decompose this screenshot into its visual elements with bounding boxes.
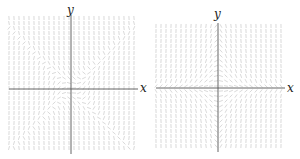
- direction-segment: [133, 26, 135, 30]
- direction-segment: [124, 136, 125, 140]
- direction-segment: [99, 101, 100, 105]
- direction-segment: [230, 69, 232, 73]
- slope-field-left: x y: [0, 0, 150, 159]
- direction-segment: [87, 107, 91, 108]
- direction-segment: [204, 86, 208, 87]
- direction-segment: [170, 89, 172, 92]
- direction-segment: [52, 107, 55, 109]
- direction-segment: [103, 116, 105, 120]
- direction-segment: [191, 114, 192, 118]
- direction-segment: [83, 91, 85, 94]
- direction-segment: [241, 64, 242, 68]
- direction-segment: [246, 59, 247, 63]
- direction-segment: [251, 69, 252, 73]
- direction-segment: [39, 66, 40, 70]
- direction-segment: [99, 76, 100, 80]
- direction-segment: [205, 95, 208, 98]
- direction-segment: [124, 41, 125, 45]
- direction-segment: [59, 116, 60, 120]
- direction-segment: [250, 94, 251, 98]
- direction-segment: [206, 54, 207, 58]
- direction-segment: [88, 101, 90, 104]
- direction-segment: [184, 85, 187, 87]
- direction-segment: [210, 59, 212, 63]
- direction-segment: [171, 69, 172, 73]
- direction-segment: [236, 59, 237, 63]
- direction-segment: [251, 74, 252, 78]
- direction-segment: [32, 52, 35, 54]
- direction-segment: [118, 137, 121, 140]
- direction-segment: [210, 34, 211, 38]
- direction-segment: [219, 96, 223, 97]
- direction-segment: [160, 89, 162, 92]
- direction-segment: [225, 129, 226, 133]
- direction-segment: [88, 96, 90, 100]
- direction-segment: [88, 91, 89, 95]
- direction-segment: [195, 79, 197, 82]
- direction-segment: [200, 64, 201, 68]
- direction-segment: [271, 74, 272, 78]
- direction-segment: [214, 50, 217, 52]
- direction-segment: [175, 94, 176, 98]
- direction-segment: [179, 85, 182, 87]
- direction-segment: [226, 29, 227, 33]
- direction-segment: [214, 105, 218, 106]
- direction-segment: [39, 46, 40, 50]
- direction-segment: [99, 106, 100, 110]
- direction-segment: [215, 35, 218, 38]
- direction-segment: [64, 116, 65, 120]
- direction-segment: [210, 139, 211, 143]
- direction-segment: [241, 109, 242, 113]
- direction-segment: [78, 106, 79, 110]
- direction-segment: [236, 44, 237, 48]
- direction-segment: [38, 51, 39, 55]
- direction-segment: [94, 91, 95, 95]
- direction-segment: [108, 121, 109, 125]
- direction-segment: [201, 54, 202, 58]
- direction-segment: [109, 61, 110, 65]
- direction-segment: [231, 54, 232, 58]
- direction-segment: [265, 79, 266, 83]
- direction-segment: [38, 116, 40, 120]
- direction-segment: [181, 99, 182, 103]
- direction-segment: [194, 85, 198, 87]
- direction-segment: [44, 96, 45, 100]
- direction-segment: [205, 104, 207, 108]
- direction-segment: [52, 72, 56, 73]
- direction-segment: [206, 29, 207, 33]
- direction-segment: [225, 75, 228, 78]
- direction-segment: [214, 125, 217, 127]
- direction-segment: [79, 61, 80, 65]
- direction-segment: [58, 66, 59, 70]
- direction-segment: [281, 74, 282, 78]
- direction-segment: [256, 69, 257, 73]
- direction-segment: [123, 31, 124, 35]
- direction-segment: [58, 106, 60, 110]
- direction-segment: [251, 99, 252, 103]
- direction-segment: [93, 67, 96, 70]
- direction-segment: [224, 86, 228, 87]
- direction-segment: [185, 90, 188, 93]
- direction-segment: [186, 104, 187, 108]
- direction-segment: [240, 79, 242, 82]
- direction-segment: [165, 79, 166, 83]
- direction-segment: [255, 79, 256, 83]
- direction-segment: [93, 71, 94, 75]
- direction-segment: [88, 61, 89, 65]
- direction-segment: [44, 81, 45, 85]
- direction-segment: [39, 71, 40, 75]
- direction-segment: [94, 51, 95, 55]
- direction-segment: [53, 111, 54, 115]
- direction-segment: [281, 79, 282, 83]
- direction-segment: [214, 130, 217, 133]
- direction-segment: [214, 96, 218, 97]
- direction-segment: [49, 56, 50, 60]
- direction-segment: [48, 76, 49, 80]
- direction-segment: [261, 99, 262, 103]
- direction-segment: [219, 60, 222, 63]
- direction-segment: [54, 116, 55, 120]
- direction-segment: [219, 75, 223, 76]
- direction-segment: [210, 64, 212, 67]
- direction-segment: [209, 95, 213, 97]
- direction-segment: [83, 81, 85, 84]
